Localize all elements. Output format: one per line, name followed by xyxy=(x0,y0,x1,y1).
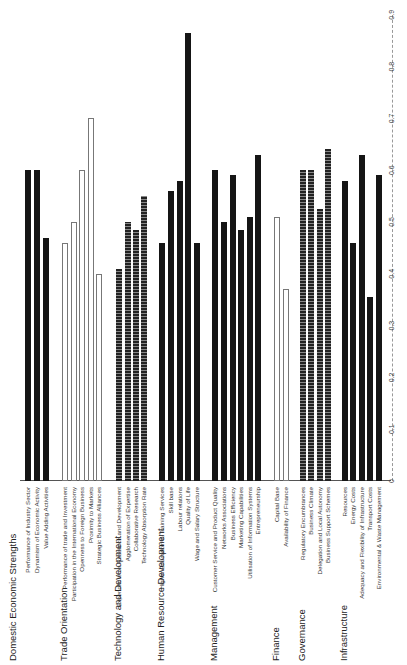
bar-label: Resources xyxy=(341,487,348,517)
bar xyxy=(212,170,218,481)
bar-label: Delegation and Local Autonomy xyxy=(316,487,323,574)
group-label: Domestic Economic Strengths xyxy=(7,534,18,661)
bar xyxy=(79,170,85,481)
bar-label: Energy Costs xyxy=(349,487,356,524)
bar xyxy=(159,243,165,481)
bar xyxy=(141,196,147,481)
group-label: Management xyxy=(208,606,219,661)
tick-label: 0.3 xyxy=(388,321,395,331)
bar xyxy=(194,243,200,481)
bar xyxy=(116,269,122,481)
bar-label: Availability of Finance xyxy=(282,487,289,547)
bar xyxy=(125,222,131,481)
bar xyxy=(255,155,261,481)
bar-label: Collaborative Research xyxy=(132,487,139,551)
bar xyxy=(300,170,306,481)
bar-label: Performance of trade and Investment xyxy=(61,487,68,589)
bar-label: Value Adding Activities xyxy=(42,487,49,549)
bar xyxy=(350,243,356,481)
bar-label: Entrepreneurship xyxy=(254,487,261,534)
bar-label: Capital Base xyxy=(273,487,280,522)
bar xyxy=(177,181,183,481)
bar-label: Expenditure on Research and Development xyxy=(115,487,122,607)
bar-label: Wage and Salary Structure xyxy=(193,487,200,561)
bar-label: Openness to Foreign Business xyxy=(78,487,85,572)
bar-label: Skill base xyxy=(167,487,174,513)
tick-label: 0.5 xyxy=(388,217,395,227)
bar xyxy=(359,155,365,481)
bar xyxy=(274,217,280,481)
bar xyxy=(88,118,94,481)
bar xyxy=(342,181,348,481)
bar xyxy=(221,222,227,481)
bar-label: Customer Service and Product Quality xyxy=(211,487,218,592)
bar xyxy=(62,243,68,481)
bar-label: Performance of Industry Sector xyxy=(24,487,31,573)
bar xyxy=(283,289,289,481)
group-label: Finance xyxy=(270,627,281,661)
bar xyxy=(247,217,253,481)
group-label: Trade Orientation xyxy=(58,587,69,661)
bar-label: Proximity to Markets xyxy=(87,487,94,543)
bar xyxy=(325,149,331,481)
rotated-chart-frame: 00.10.20.30.40.50.60.70.80.9 Domestic Ec… xyxy=(0,0,407,665)
bar xyxy=(185,33,191,481)
tick-label: 0.7 xyxy=(388,114,395,124)
group-label: Infrastructure xyxy=(338,605,349,661)
tick-label: 0 xyxy=(388,479,395,483)
bar-label: Environmental & Waste Management xyxy=(375,487,382,589)
tick-label: 0.6 xyxy=(388,165,395,175)
bar-label: Dynamism of Economic Activity xyxy=(33,487,40,573)
tick-label: 0.4 xyxy=(388,269,395,279)
bar-label: Agglomeration of Expertise xyxy=(124,487,131,561)
bar xyxy=(34,170,40,481)
bar xyxy=(168,191,174,481)
bar-label: Marketing Capabilities xyxy=(237,487,244,548)
bar-label: Adequacy and Flexibility of Infrastructu… xyxy=(358,487,365,599)
bar xyxy=(96,274,102,481)
bar-label: Networks Associations xyxy=(220,487,227,549)
bar xyxy=(238,230,244,481)
bar-label: Labour relations xyxy=(176,487,183,531)
bar-label: Participation in the International Econo… xyxy=(70,487,77,601)
bar xyxy=(25,170,31,481)
bar xyxy=(317,209,323,481)
bar-label: Higher Education & Training Services xyxy=(158,487,165,590)
value-axis-line xyxy=(392,15,394,481)
bar xyxy=(367,297,373,481)
bar xyxy=(308,170,314,481)
bar-label: Utilisation of Information Systems xyxy=(246,487,253,579)
group-label: Governance xyxy=(296,609,307,661)
tick-label: 0.8 xyxy=(388,62,395,72)
bar xyxy=(71,222,77,481)
bar xyxy=(133,230,139,481)
bar-label: Quality of Life xyxy=(184,487,191,525)
bar-label: Business Climate xyxy=(307,487,314,535)
bar xyxy=(43,238,49,481)
tick-label: 0.9 xyxy=(388,10,395,20)
bar-label: Technology Absorption Rate xyxy=(140,487,147,564)
bar-label: Strategic Business Alliances xyxy=(95,487,102,564)
bar xyxy=(376,175,382,481)
tick-label: 0.2 xyxy=(388,373,395,383)
bar-label: Business Support Schemes xyxy=(324,487,331,563)
bar-label: Transport Costs xyxy=(366,487,373,531)
bar-label: Business Efficiency xyxy=(229,487,236,540)
bar xyxy=(230,175,236,481)
bar-label: Regulatory Encumbrances xyxy=(299,487,306,560)
tick-label: 0.1 xyxy=(388,424,395,434)
